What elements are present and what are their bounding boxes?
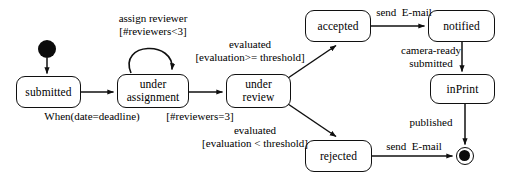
send-email-bottom-text: send E-mail (386, 140, 442, 152)
state-under-assignment-label: underassignment (118, 78, 188, 104)
state-submitted-label: submitted (17, 86, 80, 99)
transition-label-reviewers-eq-3: [#reviewers=3] (160, 110, 240, 123)
evaluated-reject-line2: [evaluation < threshold] (202, 137, 308, 149)
final-state-inner-dot (459, 150, 470, 161)
when-deadline-text: When(date=deadline) (44, 110, 139, 122)
transition-label-send-email-rejected: send E-mail (379, 140, 449, 153)
initial-state (38, 40, 56, 58)
assign-reviewer-line1: assign reviewer (119, 12, 188, 24)
reviewers-eq-3-text: [#reviewers=3] (166, 110, 233, 122)
state-under-review[interactable]: underreview (226, 74, 291, 108)
evaluated-accept-line1: evaluated (229, 38, 271, 50)
transition-label-evaluation-ge-threshold: [evaluation>= threshold] (185, 51, 315, 64)
state-under-review-label: underreview (227, 78, 290, 104)
transition-label-reviewers-lt-3: [#reviewers<3] (100, 25, 206, 38)
transition-label-camera-ready: camera-ready (393, 44, 469, 57)
send-email-top-text: send E-mail (376, 6, 432, 18)
camera-ready-line1: camera-ready (401, 44, 461, 56)
camera-ready-line2: submitted (409, 57, 452, 69)
transition-label-evaluation-lt-threshold: [evaluation < threshold] (190, 137, 320, 150)
transition-label-assign-reviewer: assign reviewer (100, 12, 206, 25)
final-state (456, 147, 474, 165)
published-text: published (410, 116, 453, 128)
state-inprint-label: inPrint (431, 83, 494, 96)
assign-reviewer-line2: [#reviewers<3] (119, 25, 186, 37)
evaluated-accept-line2: [evaluation>= threshold] (195, 51, 304, 63)
state-under-assignment[interactable]: underassignment (117, 74, 189, 108)
transition-label-camera-ready-submitted: submitted (393, 57, 469, 70)
state-submitted[interactable]: submitted (16, 76, 81, 108)
transition-label-when-deadline: When(date=deadline) (27, 110, 157, 123)
transition-label-evaluated-accept: evaluated (185, 38, 315, 51)
evaluated-reject-line1: evaluated (234, 124, 276, 136)
state-rejected-label: rejected (306, 150, 371, 163)
state-diagram: submitted underassignment underreview ac… (0, 0, 509, 186)
edge-under-assignment-self-loop (129, 49, 172, 73)
state-accepted-label: accepted (306, 20, 370, 33)
transition-label-published: published (398, 116, 464, 129)
state-inprint[interactable]: inPrint (430, 74, 495, 104)
transition-label-send-email-accepted: send E-mail (369, 6, 439, 19)
state-notified-label: notified (429, 20, 494, 33)
transition-label-evaluated-reject: evaluated (190, 124, 320, 137)
